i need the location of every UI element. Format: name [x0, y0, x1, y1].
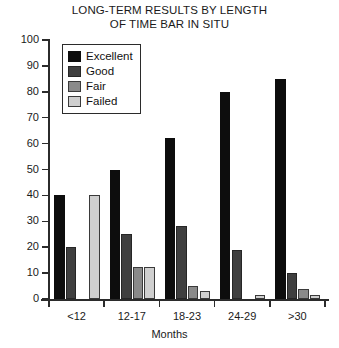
y-axis-tick [42, 65, 49, 67]
x-axis-title: Months [0, 328, 339, 340]
y-axis-tick-label: 70 [0, 112, 39, 123]
y-axis-tick-label: 0 [0, 293, 39, 304]
bar-excellent-3 [220, 92, 230, 299]
x-axis-tick [48, 300, 50, 307]
bar-fair-4 [298, 289, 308, 299]
bar-excellent-1 [110, 170, 120, 300]
bar-excellent-2 [165, 138, 175, 299]
legend-item-good: Good [68, 64, 133, 79]
x-axis-tick [214, 300, 216, 307]
y-axis-tick-label: 90 [0, 60, 39, 71]
x-axis-tick-label: 24-29 [228, 310, 256, 322]
y-axis-tick-label: 40 [0, 189, 39, 200]
bar-excellent-4 [275, 79, 285, 299]
y-axis-tick [42, 272, 49, 274]
y-axis-tick-label: 30 [0, 215, 39, 226]
x-axis-tick [159, 300, 161, 307]
y-axis-tick [42, 169, 49, 171]
chart-title: LONG-TERM RESULTS BY LENGTH OF TIME BAR … [0, 3, 339, 31]
bar-good-1 [121, 234, 131, 299]
bar-good-4 [287, 273, 297, 299]
legend-swatch-icon [68, 66, 81, 77]
x-axis-tick-label: 18-23 [173, 310, 201, 322]
bar-failed-1 [144, 267, 154, 299]
bar-failed-2 [200, 291, 210, 299]
bar-excellent-0 [54, 195, 64, 299]
x-axis-tick-label: >30 [288, 310, 307, 322]
y-axis-tick-label: 100 [0, 34, 39, 45]
y-axis-tick [42, 91, 49, 93]
bar-fair-2 [188, 286, 198, 299]
bar-good-0 [66, 247, 76, 299]
legend-item-label: Excellent [86, 50, 133, 63]
x-axis-tick [324, 300, 326, 307]
x-axis-tick-label: 12-17 [118, 310, 146, 322]
y-axis-tick [42, 246, 49, 248]
bar-good-3 [232, 250, 242, 299]
bar-fair-1 [133, 267, 143, 299]
y-axis-tick-label: 80 [0, 86, 39, 97]
y-axis-tick-label: 60 [0, 138, 39, 149]
y-axis-tick-label: 20 [0, 241, 39, 252]
legend-item-fair: Fair [68, 79, 133, 94]
legend-item-label: Good [86, 65, 114, 78]
x-axis-tick [269, 300, 271, 307]
y-axis-tick [42, 117, 49, 119]
bar-failed-4 [310, 295, 320, 299]
y-axis-tick-label: 10 [0, 267, 39, 278]
bar-good-2 [176, 226, 186, 299]
legend-swatch-icon [68, 51, 81, 62]
legend-item-failed: Failed [68, 94, 133, 109]
legend-item-label: Failed [86, 95, 117, 108]
chart-title-line-2: OF TIME BAR IN SITU [0, 17, 339, 31]
x-axis-tick-label: <12 [67, 310, 86, 322]
chart-title-line-1: LONG-TERM RESULTS BY LENGTH [0, 3, 339, 17]
y-axis-tick [42, 39, 49, 41]
legend-item-excellent: Excellent [68, 49, 133, 64]
y-axis-tick [42, 221, 49, 223]
chart-legend: ExcellentGoodFairFailed [62, 44, 141, 114]
bar-failed-3 [255, 295, 265, 299]
legend-swatch-icon [68, 96, 81, 107]
bar-failed-0 [89, 195, 99, 299]
x-axis-tick [103, 300, 105, 307]
y-axis-tick [42, 195, 49, 197]
legend-swatch-icon [68, 81, 81, 92]
chart-figure: LONG-TERM RESULTS BY LENGTH OF TIME BAR … [0, 0, 339, 348]
y-axis-tick-label: 50 [0, 164, 39, 175]
x-axis-line [41, 299, 329, 301]
y-axis-tick [42, 143, 49, 145]
legend-item-label: Fair [86, 80, 106, 93]
